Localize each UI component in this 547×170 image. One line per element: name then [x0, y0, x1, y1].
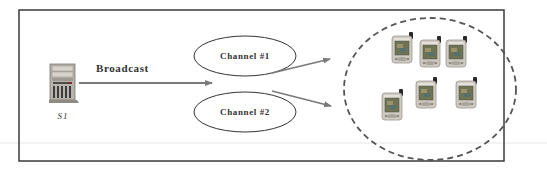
server-label: S1	[58, 111, 69, 121]
pda-icon	[382, 89, 403, 120]
channel-2-label: Channel #2	[220, 107, 270, 117]
channel-1-label: Channel #1	[220, 51, 270, 61]
diagram-svg	[0, 0, 547, 170]
server-tower-icon	[49, 64, 79, 103]
pda-icon	[446, 36, 467, 67]
diagram-canvas: Broadcast Channel #1 Channel #2 S1	[0, 0, 547, 170]
pda-icon	[416, 77, 437, 108]
pda-icon	[392, 32, 413, 63]
broadcast-label: Broadcast	[96, 62, 149, 74]
pda-icon	[420, 36, 441, 67]
pda-icon	[456, 77, 477, 108]
